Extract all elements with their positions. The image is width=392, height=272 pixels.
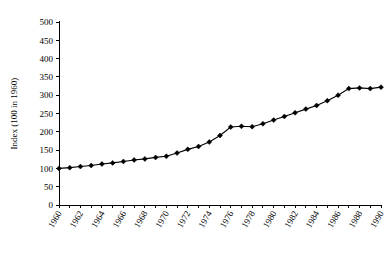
data-point-marker bbox=[121, 159, 126, 164]
data-point-marker bbox=[314, 103, 319, 108]
data-point-marker bbox=[357, 85, 362, 90]
y-tick-label: 0 bbox=[49, 200, 54, 210]
data-point-marker bbox=[207, 140, 212, 145]
data-point-marker bbox=[325, 98, 330, 103]
data-point-marker bbox=[239, 124, 244, 129]
data-point-marker bbox=[346, 86, 351, 91]
data-point-marker bbox=[142, 156, 147, 161]
x-tick-label: 1974 bbox=[196, 209, 214, 230]
series-line bbox=[59, 87, 381, 168]
data-point-marker bbox=[164, 154, 169, 159]
x-tick-label: 1960 bbox=[46, 209, 64, 230]
data-point-marker bbox=[110, 160, 115, 165]
data-point-marker bbox=[89, 163, 94, 168]
data-point-marker bbox=[282, 114, 287, 119]
data-point-marker bbox=[196, 144, 201, 149]
y-axis-title: Index (100 in 1960) bbox=[9, 78, 19, 150]
y-tick-label: 50 bbox=[44, 182, 54, 192]
y-tick-label: 300 bbox=[40, 90, 54, 100]
x-tick-label: 1970 bbox=[153, 209, 171, 230]
data-point-marker bbox=[153, 155, 158, 160]
x-tick-label: 1968 bbox=[132, 209, 150, 230]
data-point-marker bbox=[336, 93, 341, 98]
y-tick-label: 150 bbox=[40, 145, 54, 155]
data-point-marker bbox=[250, 124, 255, 129]
y-tick-label: 200 bbox=[40, 127, 54, 137]
x-tick-label: 1982 bbox=[282, 209, 300, 230]
x-tick-label: 1964 bbox=[89, 209, 107, 230]
data-point-marker bbox=[271, 118, 276, 123]
data-point-marker bbox=[67, 165, 72, 170]
data-point-marker bbox=[78, 164, 83, 169]
data-point-marker bbox=[175, 151, 180, 156]
data-point-marker bbox=[379, 85, 384, 90]
x-axis: 1960196219641966196819701972197419761978… bbox=[46, 205, 386, 230]
data-point-marker bbox=[260, 121, 265, 126]
line-chart: 050100150200250300350400450500 196019621… bbox=[0, 0, 392, 272]
data-point-marker bbox=[185, 147, 190, 152]
x-tick-label: 1990 bbox=[368, 209, 386, 230]
data-point-marker bbox=[368, 86, 373, 91]
x-tick-label: 1980 bbox=[261, 209, 279, 230]
y-tick-label: 400 bbox=[40, 54, 54, 64]
x-tick-label: 1978 bbox=[239, 209, 257, 230]
data-point-marker bbox=[132, 157, 137, 162]
chart-container: 050100150200250300350400450500 196019621… bbox=[0, 0, 392, 272]
data-series bbox=[57, 85, 384, 171]
x-tick-label: 1966 bbox=[110, 209, 128, 230]
y-tick-label: 350 bbox=[40, 72, 54, 82]
y-tick-label: 500 bbox=[40, 17, 54, 27]
data-point-marker bbox=[303, 107, 308, 112]
x-tick-label: 1976 bbox=[218, 209, 236, 230]
x-tick-label: 1962 bbox=[68, 209, 86, 230]
y-tick-label: 450 bbox=[40, 36, 54, 46]
y-axis: 050100150200250300350400450500 bbox=[40, 17, 60, 210]
x-tick-label: 1972 bbox=[175, 209, 193, 230]
y-tick-label: 250 bbox=[40, 109, 54, 119]
y-tick-label: 100 bbox=[40, 164, 54, 174]
x-tick-label: 1988 bbox=[347, 209, 365, 230]
data-point-marker bbox=[99, 162, 104, 167]
x-tick-label: 1986 bbox=[325, 209, 343, 230]
data-point-marker bbox=[293, 110, 298, 115]
x-tick-label: 1984 bbox=[304, 209, 322, 230]
data-point-marker bbox=[57, 166, 62, 171]
